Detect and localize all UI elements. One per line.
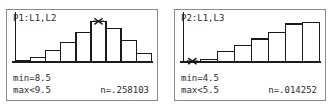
plot-area-1[interactable]: P1:L1,L2 — [7, 10, 157, 72]
calculator-plot-screens: P1:L1,L2 min=8.5 max<9.5 n=.258103 P2:L1… — [0, 0, 332, 110]
histogram-bar[interactable] — [46, 51, 61, 63]
histogram-bar[interactable] — [61, 43, 76, 62]
readout-1: min=8.5 max<9.5 n=.258103 — [7, 70, 157, 100]
max-readout-1: max<9.5 — [13, 84, 51, 96]
plot-area-2[interactable]: P2:L1,L3 — [175, 10, 325, 72]
histogram-bar[interactable] — [136, 53, 151, 62]
min-readout-1: min=8.5 — [13, 72, 151, 84]
max-readout-2: max<5.5 — [181, 84, 219, 96]
histogram-bar[interactable] — [235, 45, 252, 62]
n-readout-1: n=.258103 — [100, 84, 149, 96]
plot-title-1: P1:L1,L2 — [13, 13, 56, 23]
plot-title-2: P2:L1,L3 — [181, 13, 224, 23]
min-readout-2: min=4.5 — [181, 72, 319, 84]
histogram-bar[interactable] — [106, 28, 121, 62]
histogram-bar[interactable] — [302, 22, 319, 62]
readout-2: min=4.5 max<5.5 n=.014252 — [175, 70, 325, 100]
crosshair-cursor-marker[interactable] — [187, 58, 198, 64]
histogram-bar[interactable] — [268, 33, 285, 62]
histogram-bar[interactable] — [121, 41, 136, 62]
histogram-bar[interactable] — [285, 24, 302, 62]
n-readout-2: n=.014252 — [268, 84, 317, 96]
max-n-readout-2: max<5.5 n=.014252 — [181, 84, 319, 96]
histogram-bar[interactable] — [76, 33, 91, 62]
histogram-bar[interactable] — [218, 51, 235, 62]
max-n-readout-1: max<9.5 n=.258103 — [13, 84, 151, 96]
histogram-bar[interactable] — [251, 39, 268, 62]
plot-panel-1[interactable]: P1:L1,L2 min=8.5 max<9.5 n=.258103 — [6, 9, 158, 101]
plot-panel-2[interactable]: P2:L1,L3 min=4.5 max<5.5 n=.014252 — [174, 9, 326, 101]
histogram-bar[interactable] — [91, 21, 106, 62]
